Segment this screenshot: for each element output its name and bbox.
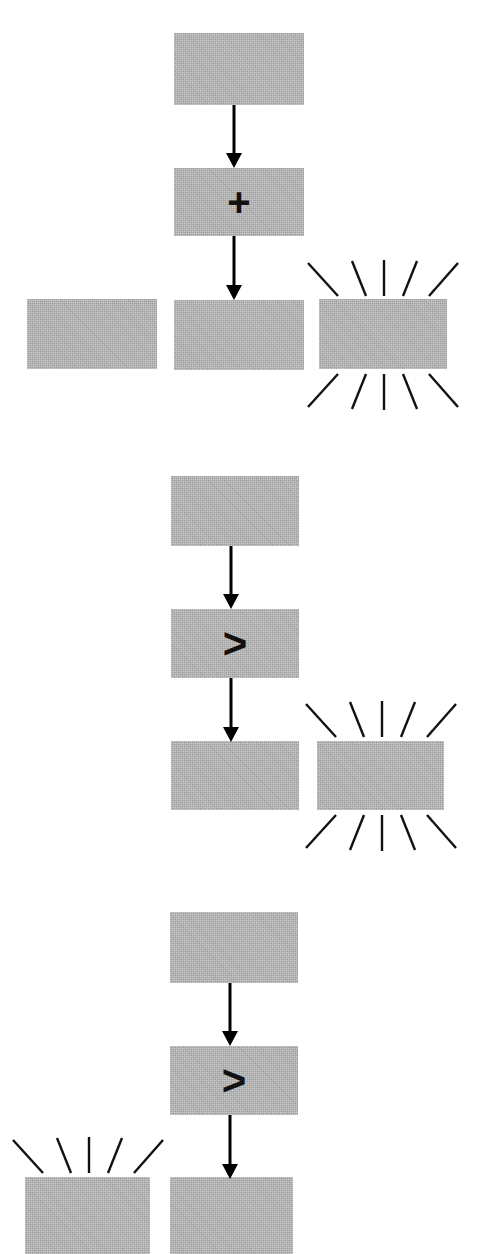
- panel-1-plus-operator: +: [174, 168, 304, 236]
- panel-3-bottom-center-result-box: [170, 1177, 293, 1254]
- panel-1-addition: +: [0, 0, 479, 420]
- panel-3-top-operand-box: [170, 912, 298, 983]
- diagram-canvas: +: [0, 0, 479, 1254]
- panel-2-comparison: >: [0, 440, 479, 870]
- panel-2-arrow-operator-to-result: [222, 678, 240, 742]
- panel-2-bottom-center-result-box: [171, 741, 299, 810]
- panel-2-arrow-top-to-operator: [222, 546, 240, 609]
- panel-1-bottom-left-box: [27, 299, 157, 369]
- panel-2-top-operand-box: [171, 476, 299, 546]
- panel-1-bottom-right-highlighted-box: [319, 299, 447, 369]
- panel-3-comparison: >: [0, 870, 479, 1254]
- panel-3-sparkle-rays-above: [5, 1135, 170, 1179]
- panel-2-sparkle-rays-below: [298, 809, 463, 853]
- panel-1-sparkle-rays-above: [300, 258, 465, 302]
- panel-2-greater-than-operator: >: [171, 609, 299, 678]
- panel-1-arrow-operator-to-result: [225, 236, 243, 300]
- panel-1-sparkle-rays-below: [300, 368, 465, 412]
- panel-1-bottom-center-result-box: [174, 300, 304, 370]
- panel-1-top-operand-box: [174, 33, 304, 105]
- panel-3-greater-than-operator: >: [170, 1046, 298, 1115]
- panel-3-bottom-left-highlighted-box: [25, 1177, 150, 1254]
- panel-1-arrow-top-to-operator: [225, 105, 243, 168]
- panel-2-sparkle-rays-above: [298, 699, 463, 743]
- panel-3-arrow-operator-to-result: [221, 1115, 239, 1179]
- panel-3-arrow-top-to-operator: [221, 983, 239, 1046]
- panel-2-bottom-right-highlighted-box: [317, 741, 444, 810]
